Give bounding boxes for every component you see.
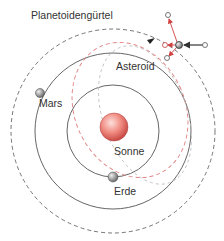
asteroid-trajectory [51, 23, 210, 196]
velocity-vector-red-down [169, 48, 176, 56]
vector-origin-dark [203, 43, 208, 48]
direction-arrow-icon [147, 38, 155, 44]
earth-planet [108, 172, 118, 182]
vector-tip-up [166, 13, 171, 18]
asteroid [176, 42, 183, 49]
sun-label: Sonne [114, 146, 144, 157]
sun [100, 113, 128, 141]
vector-tip-down [165, 56, 170, 61]
asteroid-trajectory-alt [81, 33, 209, 197]
asteroid-belt-label: Planetoidengürtel [31, 10, 113, 21]
vector-tip-left [163, 43, 168, 48]
asteroid-label: Asteroid [116, 61, 155, 72]
velocity-vector-red-up [169, 19, 177, 42]
solar-system-diagram [0, 0, 224, 241]
mars-label: Mars [39, 98, 62, 109]
earth-label: Erde [114, 186, 136, 197]
